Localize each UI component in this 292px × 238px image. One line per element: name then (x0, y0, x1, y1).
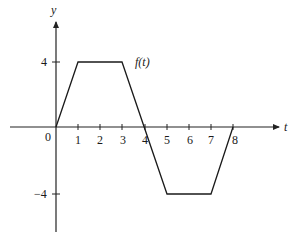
x-tick-label-7: 7 (208, 133, 214, 147)
x-tick-label-2: 2 (97, 133, 103, 147)
x-tick-labels: 1 2 3 4 5 6 7 8 (75, 133, 238, 147)
y-tick-label-4: 4 (41, 55, 47, 69)
curve-label: f(t) (135, 55, 150, 69)
y-axis-label: y (50, 3, 57, 17)
f-t-curve (56, 62, 233, 194)
x-tick-label-1: 1 (75, 133, 81, 147)
x-tick-label-8: 8 (232, 133, 238, 147)
x-tick-label-5: 5 (164, 133, 170, 147)
x-tick-label-6: 6 (187, 133, 193, 147)
y-tick-label-neg4: −4 (34, 187, 47, 201)
x-tick-label-3: 3 (120, 133, 126, 147)
x-axis-label: t (284, 120, 288, 134)
origin-label: 0 (45, 130, 51, 144)
line-chart: t y 0 1 2 3 4 5 6 7 8 4 −4 f(t) (0, 0, 292, 238)
